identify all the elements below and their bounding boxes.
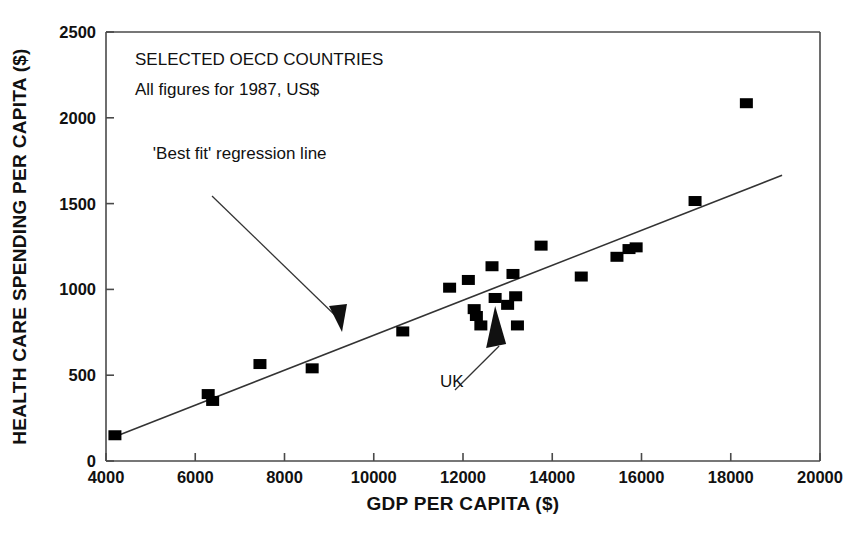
x-tick-label: 20000 — [797, 468, 843, 486]
chart-container: 4000600080001000012000140001600018000200… — [0, 0, 868, 534]
data-point-marker — [509, 291, 522, 301]
regression-arrow-head — [329, 304, 347, 332]
data-point-marker — [630, 242, 643, 252]
data-point-marker — [489, 293, 502, 303]
data-point-marker — [253, 359, 266, 369]
regression-leader-line — [212, 196, 342, 322]
data-point-marker — [689, 196, 702, 206]
uk-arrow-head — [486, 306, 506, 348]
data-point-marker — [206, 396, 219, 406]
annotations-group: SELECTED OECD COUNTRIESAll figures for 1… — [135, 50, 464, 392]
annotation-regression-label: 'Best fit' regression line — [153, 144, 327, 163]
y-tick-label: 500 — [68, 366, 96, 384]
x-tick-label: 14000 — [529, 468, 575, 486]
data-point-marker — [501, 300, 514, 310]
data-point-marker — [511, 320, 524, 330]
x-tick-label: 10000 — [351, 468, 397, 486]
data-point-marker — [575, 272, 588, 282]
data-point-marker — [474, 320, 487, 330]
x-tick-label: 12000 — [440, 468, 486, 486]
data-point-marker — [396, 326, 409, 336]
annotation-heading: SELECTED OECD COUNTRIES — [135, 50, 383, 69]
data-point-marker — [470, 311, 483, 321]
y-tick-label: 0 — [87, 452, 96, 470]
data-point-marker — [740, 98, 753, 108]
y-tick-label: 1000 — [59, 280, 96, 298]
x-tick-label: 16000 — [619, 468, 665, 486]
x-tick-label: 6000 — [177, 468, 214, 486]
y-tick-labels: 05001000150020002500 — [59, 23, 96, 470]
data-point-marker — [462, 275, 475, 285]
data-point-marker — [535, 241, 548, 251]
x-axis-title: GDP PER CAPITA ($) — [367, 493, 560, 514]
y-tick-label: 2500 — [59, 23, 96, 41]
data-point-marker — [610, 252, 623, 262]
x-tick-label: 4000 — [88, 468, 125, 486]
y-tick-label: 2000 — [59, 109, 96, 127]
data-point-marker — [443, 283, 456, 293]
data-point-marker — [486, 261, 499, 271]
annotation-uk-label: UK — [440, 372, 464, 391]
x-tick-label: 8000 — [266, 468, 303, 486]
data-point-marker — [506, 269, 519, 279]
annotation-subheading: All figures for 1987, US$ — [135, 80, 320, 99]
data-point-marker — [306, 363, 319, 373]
x-tick-labels: 4000600080001000012000140001600018000200… — [88, 468, 843, 486]
scatter-plot: 4000600080001000012000140001600018000200… — [0, 0, 868, 534]
data-point-marker — [108, 430, 121, 440]
y-tick-label: 1500 — [59, 195, 96, 213]
x-tick-label: 18000 — [708, 468, 754, 486]
y-axis-title: HEALTH CARE SPENDING PER CAPITA ($) — [9, 48, 30, 445]
